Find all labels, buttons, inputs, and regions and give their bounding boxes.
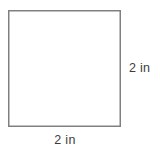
geometry-figure: 2 in 2 in xyxy=(0,0,160,153)
square-shape-svg xyxy=(0,0,160,153)
dimension-label-bottom: 2 in xyxy=(0,133,130,147)
dimension-label-right: 2 in xyxy=(129,61,150,75)
square-outline xyxy=(9,11,121,127)
